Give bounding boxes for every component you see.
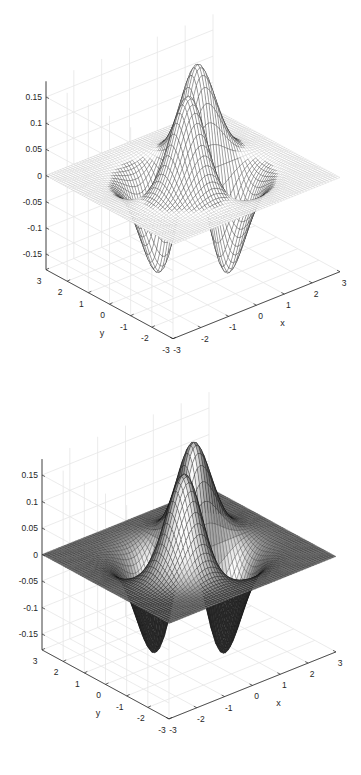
z-tick xyxy=(42,475,45,477)
x-tick xyxy=(194,706,197,708)
z-tick-label: 0.05 xyxy=(21,523,38,533)
z-tick xyxy=(42,528,45,530)
z-tick xyxy=(46,123,49,125)
y-tick-label: -2 xyxy=(137,713,145,723)
x-axis-label: x xyxy=(280,318,285,328)
x-tick-label: -3 xyxy=(169,725,177,735)
x-tick xyxy=(333,650,336,652)
z-tick xyxy=(42,581,45,583)
x-axis-line xyxy=(169,652,336,719)
y-axis-label: y xyxy=(100,328,105,338)
z-tick-label: -0.1 xyxy=(27,223,42,233)
x-tick-label: -3 xyxy=(173,345,181,355)
mesh-plot: -3-2-10123-3-2-10123-0.15-0.1-0.0500.050… xyxy=(0,0,361,390)
z-tick xyxy=(42,634,45,636)
z-tick xyxy=(46,254,49,256)
gridline xyxy=(148,640,315,707)
x-tick xyxy=(166,717,169,719)
x-tick-label: -2 xyxy=(197,714,205,724)
z-tick xyxy=(46,202,49,204)
surface-plot: -3-2-10123-3-2-10123-0.15-0.1-0.0500.050… xyxy=(0,390,361,775)
y-tick-label: -3 xyxy=(158,725,166,735)
x-tick-label: -1 xyxy=(229,322,237,332)
x-tick-label: 2 xyxy=(314,289,319,299)
z-tick xyxy=(42,608,45,610)
x-tick xyxy=(309,281,312,283)
x-tick-label: 3 xyxy=(338,658,343,668)
z-tick-label: -0.1 xyxy=(23,603,38,613)
z-tick-label: -0.15 xyxy=(23,249,43,259)
x-tick-label: 1 xyxy=(282,680,287,690)
z-tick-label: -0.05 xyxy=(19,576,39,586)
y-tick-label: -2 xyxy=(141,333,149,343)
x-tick xyxy=(337,270,340,272)
z-tick-label: -0.05 xyxy=(23,197,43,207)
x-tick xyxy=(305,662,308,664)
x-tick xyxy=(277,673,280,675)
x-axis-label: x xyxy=(276,698,281,708)
y-tick-label: 3 xyxy=(33,656,38,666)
x-tick xyxy=(198,326,201,328)
z-tick-label: 0.15 xyxy=(21,470,38,480)
z-tick xyxy=(46,228,49,230)
x-tick-label: 1 xyxy=(286,300,291,310)
y-tick-label: -1 xyxy=(120,322,128,332)
y-tick-label: -3 xyxy=(162,345,170,355)
y-tick-label: 1 xyxy=(75,679,80,689)
z-tick-label: -0.15 xyxy=(19,629,39,639)
gridline xyxy=(106,617,273,684)
x-tick-label: 2 xyxy=(310,669,315,679)
x-tick-label: 3 xyxy=(342,278,347,288)
x-tick xyxy=(281,293,284,295)
surface xyxy=(42,442,336,653)
y-tick-label: 3 xyxy=(37,276,42,286)
z-tick xyxy=(42,502,45,504)
z-tick-label: 0 xyxy=(37,171,42,181)
gridline xyxy=(152,260,319,327)
x-tick-label: -2 xyxy=(201,334,209,344)
y-tick-label: -1 xyxy=(116,702,124,712)
y-tick-label: 0 xyxy=(100,310,105,320)
z-tick-label: 0.1 xyxy=(30,118,42,128)
y-tick-label: 2 xyxy=(54,667,59,677)
z-tick-label: 0.05 xyxy=(25,144,42,154)
x-tick-label: 0 xyxy=(254,691,259,701)
x-tick xyxy=(254,304,257,306)
z-tick xyxy=(46,149,49,151)
y-tick-label: 0 xyxy=(96,690,101,700)
z-tick xyxy=(46,97,49,99)
x-tick xyxy=(222,695,225,697)
y-tick-label: 2 xyxy=(58,287,63,297)
x-tick xyxy=(170,337,173,339)
y-tick-label: 1 xyxy=(79,299,84,309)
x-tick-label: 0 xyxy=(258,311,263,321)
x-tick xyxy=(250,684,253,686)
gridline xyxy=(110,237,277,304)
y-axis-label: y xyxy=(96,708,101,718)
z-tick-label: 0 xyxy=(33,550,38,560)
x-tick-label: -1 xyxy=(225,703,233,713)
x-tick xyxy=(226,315,229,317)
surface xyxy=(46,64,340,273)
z-tick-label: 0.15 xyxy=(25,92,42,102)
z-tick-label: 0.1 xyxy=(26,497,38,507)
